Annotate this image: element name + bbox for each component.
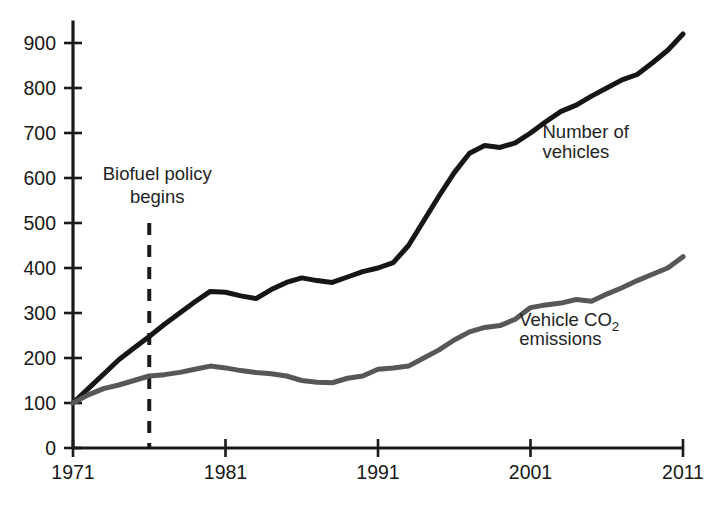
- line-chart-canvas: 0100200300400500600700800900 19711981199…: [0, 0, 715, 507]
- x-axis-tick-label: 1981: [204, 461, 247, 483]
- series-label-co2-line2: emissions: [519, 328, 601, 349]
- series-label-layer: Number ofvehiclesVehicle CO2emissions: [519, 121, 629, 350]
- y-axis-tick-label: 300: [23, 302, 56, 324]
- y-axis-tick-label: 0: [45, 437, 56, 459]
- policy-annotation-line1: Biofuel policy: [103, 163, 213, 184]
- y-axis-tick-label: 200: [23, 347, 56, 369]
- y-axis-tick-label: 800: [23, 77, 56, 99]
- series-label-vehicles-line1: Number of: [543, 121, 630, 142]
- x-axis-tick-label: 2001: [509, 461, 552, 483]
- series-label-vehicles-line2: vehicles: [543, 141, 610, 162]
- x-axis-tick-label: 2011: [662, 461, 704, 483]
- y-axis-tick-label: 900: [23, 32, 56, 54]
- x-axis-tick-label: 1971: [51, 461, 94, 483]
- policy-annotation-line2: begins: [130, 186, 185, 207]
- y-axis-tick-label: 700: [23, 122, 56, 144]
- x-axis-tick-label: 1991: [356, 461, 399, 483]
- chart-figure: 0100200300400500600700800900 19711981199…: [0, 0, 715, 507]
- annotation-layer: Biofuel policybegins: [103, 163, 213, 448]
- y-axis-tick-label: 400: [23, 257, 56, 279]
- y-axis-tick-label: 100: [23, 392, 56, 414]
- y-axis: 0100200300400500600700800900: [23, 21, 82, 460]
- y-axis-tick-label: 500: [23, 212, 56, 234]
- series-label-co2-subscript: 2: [612, 319, 620, 334]
- y-axis-tick-label: 600: [23, 167, 56, 189]
